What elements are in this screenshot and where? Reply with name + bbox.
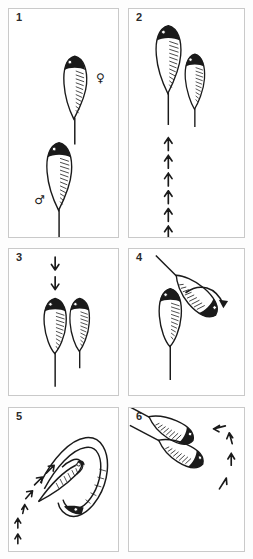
up-arrow <box>165 138 172 151</box>
panel-6-artwork <box>129 408 244 551</box>
female-symbol-icon: ♀ <box>96 71 105 85</box>
fish-lower-tilted <box>129 417 207 473</box>
panel-6: 6 <box>128 407 245 552</box>
panel-1-artwork: ♀ ♂ <box>9 9 118 237</box>
up-arrow-column <box>165 138 172 237</box>
fish-upper-tilted <box>129 408 198 449</box>
panel-5-artwork <box>9 408 118 551</box>
up-arrow <box>165 209 172 222</box>
up-arrow <box>165 173 172 186</box>
fish-male <box>47 143 72 237</box>
up-arrow <box>165 191 172 204</box>
fish-smaller <box>185 54 204 127</box>
down-arrow <box>51 257 58 270</box>
down-arrow-column <box>51 257 58 289</box>
down-arrow <box>51 277 58 290</box>
panel-3-artwork <box>9 249 118 395</box>
fish-larger <box>156 26 181 125</box>
fish-left <box>44 298 66 386</box>
fish-inner <box>38 459 84 501</box>
up-arrow <box>165 155 172 168</box>
figure-root: 1 <box>0 0 253 559</box>
fish-right <box>70 298 89 368</box>
diagonal-arrow-trail <box>15 465 54 544</box>
panel-2: 2 <box>128 8 245 238</box>
panel-2-artwork <box>129 9 244 237</box>
panel-4-artwork <box>129 249 244 395</box>
male-symbol-icon: ♂ <box>34 193 45 207</box>
panel-3: 3 <box>8 248 119 396</box>
panel-4: 4 <box>128 248 245 396</box>
fish-upright <box>159 289 181 380</box>
panel-5: 5 <box>8 407 119 552</box>
up-arrow <box>165 226 172 237</box>
fish-female <box>64 56 87 144</box>
arc-arrow-group <box>214 425 235 488</box>
panel-grid: 1 <box>0 0 253 559</box>
panel-1: 1 <box>8 8 119 238</box>
